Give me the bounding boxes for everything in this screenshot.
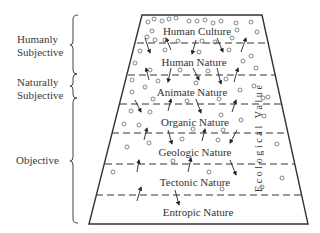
bracket-label-humanly-subjective: Humanly Subjective	[17, 33, 63, 59]
bracket	[70, 15, 78, 223]
layer-human-culture: Human Culture	[163, 25, 231, 37]
bracket-label-objective: Objective	[16, 154, 59, 167]
bracket-label-naturally-subjective: Naturally Subjective	[17, 76, 63, 102]
bracket-label-line: Subjective	[17, 89, 63, 102]
ecological-value-axis-label: Ecological Value	[253, 52, 264, 192]
bracket-label-line: Naturally	[17, 76, 63, 89]
layer-geologic-nature: Geologic Nature	[159, 146, 232, 158]
bracket-label-line: Humanly	[17, 33, 63, 46]
layer-tectonic-nature: Tectonic Nature	[160, 176, 230, 188]
layer-organic-nature: Organic Nature	[161, 116, 229, 128]
layer-entropic-nature: Entropic Nature	[163, 206, 234, 218]
layer-animate-nature: Animate Nature	[157, 86, 228, 98]
bracket-label-line: Subjective	[17, 46, 63, 59]
layer-human-nature: Human Nature	[161, 56, 226, 68]
